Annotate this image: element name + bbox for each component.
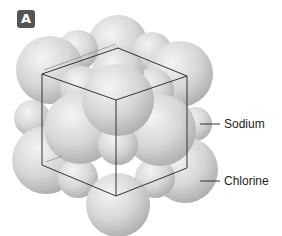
panel-label-badge: A	[17, 10, 35, 28]
chlorine-label: Chlorine	[224, 174, 269, 188]
sodium-label: Sodium	[224, 117, 265, 131]
